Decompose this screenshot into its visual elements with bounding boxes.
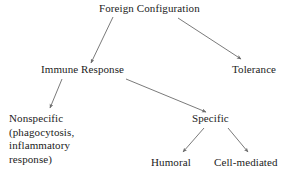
immune-response-flowchart: Foreign Configuration Immune Response To… (0, 0, 290, 175)
node-nonspecific-line-3: inflammatory (9, 139, 95, 153)
node-humoral: Humoral (151, 156, 191, 169)
node-foreign-configuration: Foreign Configuration (99, 2, 200, 15)
edge-specific-to-cell-mediated (228, 128, 248, 152)
node-nonspecific-line-4: response) (9, 153, 95, 167)
node-specific: Specific (192, 112, 229, 125)
node-nonspecific-line-1: Nonspecific (9, 112, 95, 126)
edge-foreign-configuration-to-immune-response (91, 17, 113, 63)
edge-specific-to-humoral (183, 128, 204, 152)
node-cell-mediated: Cell-mediated (214, 156, 278, 169)
node-nonspecific: Nonspecific (phagocytosis, inflammatory … (9, 112, 95, 166)
edge-immune-response-to-nonspecific (50, 79, 62, 108)
edge-immune-response-to-specific (126, 79, 206, 112)
node-immune-response: Immune Response (41, 63, 124, 76)
edge-foreign-configuration-to-tolerance (178, 18, 241, 59)
node-tolerance: Tolerance (232, 63, 276, 76)
node-nonspecific-line-2: (phagocytosis, (9, 126, 95, 140)
